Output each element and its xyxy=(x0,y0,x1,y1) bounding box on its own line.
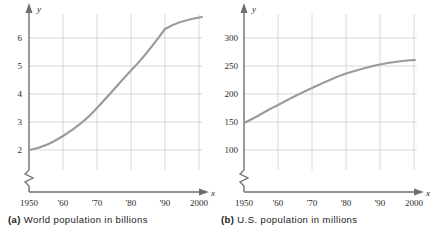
y-tick-b-200: 200 xyxy=(225,89,239,99)
x-tick-b-60: '60 xyxy=(273,198,284,208)
x-tick-a-90: '90 xyxy=(160,198,171,208)
y-axis-label-a: y xyxy=(36,4,41,14)
x-tick-b-2000: 2000 xyxy=(405,198,424,208)
grid-vertical-b xyxy=(278,14,414,170)
x-tick-a-2000: 2000 xyxy=(190,198,209,208)
y-tick-a-2: 2 xyxy=(18,145,23,155)
caption-b-tag: (b) xyxy=(221,214,234,225)
y-axis-label-b: y xyxy=(251,4,256,14)
y-tick-labels-b: 300 250 200 150 100 xyxy=(225,33,239,155)
x-tick-labels-a: 1950 '60 '70 '80 '90 2000 xyxy=(20,198,209,208)
chart-world-population: 6 5 4 3 2 1950 '60 '70 '80 '90 2000 y x xyxy=(0,0,217,212)
y-tick-b-150: 150 xyxy=(225,117,239,127)
grid-vertical-a xyxy=(63,14,199,170)
x-tick-a-80: '80 xyxy=(126,198,137,208)
x-axis-b xyxy=(244,189,424,196)
x-tick-a-70: '70 xyxy=(92,198,103,208)
caption-b-text: U.S. population in millions xyxy=(237,214,357,225)
y-axis-a xyxy=(25,3,33,192)
figure-panel-a: 6 5 4 3 2 1950 '60 '70 '80 '90 2000 y x xyxy=(0,0,217,239)
figure-panel-b: 300 250 200 150 100 1950 '60 '70 '80 '90… xyxy=(217,0,434,239)
caption-b: (b)U.S. population in millions xyxy=(221,214,357,225)
data-curve-us-population xyxy=(244,60,415,123)
x-axis-label-a: x xyxy=(210,188,215,198)
y-tick-b-100: 100 xyxy=(225,145,239,155)
y-tick-a-6: 6 xyxy=(18,33,23,43)
x-axis-a xyxy=(29,189,209,196)
grid-horizontal-b xyxy=(244,38,417,150)
y-tick-b-300: 300 xyxy=(225,33,239,43)
y-tick-a-4: 4 xyxy=(18,89,23,99)
y-tick-a-5: 5 xyxy=(18,61,23,71)
x-tick-b-1950: 1950 xyxy=(235,198,254,208)
chart-us-population: 300 250 200 150 100 1950 '60 '70 '80 '90… xyxy=(217,0,434,212)
y-tick-a-3: 3 xyxy=(18,117,23,127)
grid-horizontal-a xyxy=(29,38,202,150)
y-tick-labels-a: 6 5 4 3 2 xyxy=(18,33,23,155)
y-axis-b xyxy=(240,3,248,192)
x-tick-b-90: '90 xyxy=(375,198,386,208)
caption-a: (a)World population in billions xyxy=(8,214,148,225)
x-tick-b-80: '80 xyxy=(341,198,352,208)
x-tick-labels-b: 1950 '60 '70 '80 '90 2000 xyxy=(235,198,424,208)
x-axis-label-b: x xyxy=(425,188,430,198)
figure-page: 6 5 4 3 2 1950 '60 '70 '80 '90 2000 y x xyxy=(0,0,434,239)
x-tick-a-60: '60 xyxy=(58,198,69,208)
y-tick-b-250: 250 xyxy=(225,61,239,71)
caption-a-tag: (a) xyxy=(8,214,21,225)
x-tick-b-70: '70 xyxy=(307,198,318,208)
data-curve-world-population xyxy=(29,17,202,150)
caption-a-text: World population in billions xyxy=(24,214,148,225)
x-tick-a-1950: 1950 xyxy=(20,198,39,208)
